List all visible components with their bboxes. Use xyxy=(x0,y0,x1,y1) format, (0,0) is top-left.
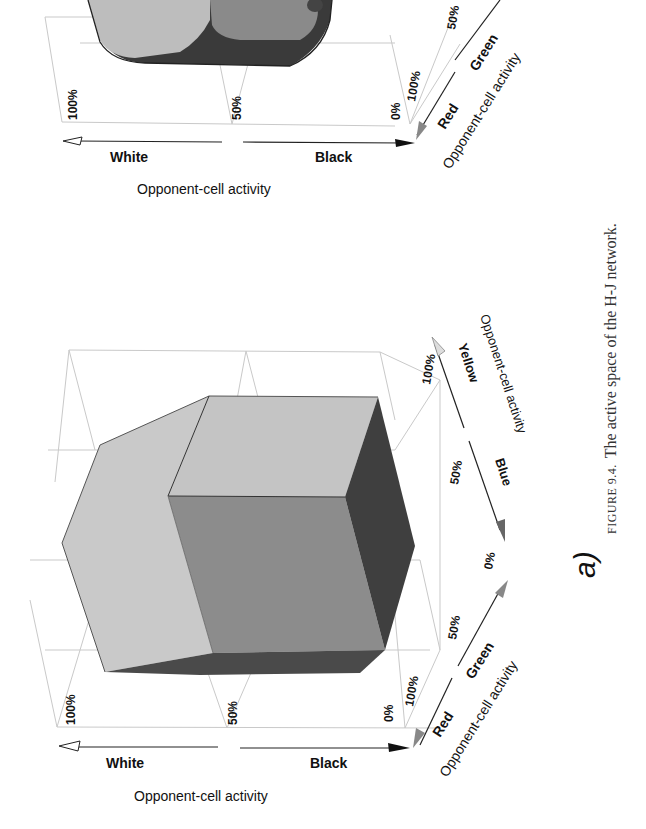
figure-a-tick-100: 100% xyxy=(64,694,78,725)
figure-a: 100% 50% 0% 100% 50% 0% 50% 100% White B… xyxy=(30,312,601,804)
caption-prefix: FIGURE 9.4. xyxy=(605,464,619,534)
figure-b-mid-face xyxy=(210,0,318,40)
figure-b-white-arrow-line xyxy=(75,141,222,142)
figure-b-black-arrow-line xyxy=(243,142,405,143)
figure-page: 100% 50% 0% 100% 50% White Black Opponen… xyxy=(0,0,646,829)
figure-a-blue-label: Blue xyxy=(492,456,515,487)
figure-b-tick-0: 0% xyxy=(389,102,403,120)
figure-a-tick-0: 0% xyxy=(382,704,396,722)
figure-a-white-arrowhead-icon xyxy=(59,741,80,751)
figure-a-by-tick-50: 50% xyxy=(447,459,465,485)
figure-a-rg-tick-0: 0% xyxy=(481,551,498,571)
figure-b-green-label: Green xyxy=(466,31,501,74)
figure-b-white-label: White xyxy=(110,149,148,165)
figure-b-white-arrowhead-icon xyxy=(63,137,82,145)
figure-a-black-arrowhead-icon xyxy=(388,743,410,752)
figure-b-partial: 100% 50% 0% 100% 50% White Black Opponen… xyxy=(45,0,523,197)
figure-a-rg-tick-50: 50% xyxy=(445,614,463,640)
figure-a-yellow-label: Yellow xyxy=(455,341,482,385)
figure-a-by-axis-title: Opponent-cell activity xyxy=(477,312,530,435)
figure-b-black-label: Black xyxy=(315,149,353,165)
figure-a-white-label: White xyxy=(106,755,144,771)
figure-b-black-arrowhead-icon xyxy=(395,139,415,147)
figure-caption-text: FIGURE 9.4.The active space of the H-J n… xyxy=(602,223,620,534)
figure-b-tick-50: 50% xyxy=(230,96,244,120)
figure-caption: FIGURE 9.4.The active space of the H-J n… xyxy=(602,223,620,534)
figure-a-yellow-arrowhead-icon xyxy=(432,337,445,356)
figure-b-red-arrowhead-icon xyxy=(416,121,427,140)
figure-a-panel-label: a) xyxy=(568,551,601,578)
figure-a-by-tick-100: 100% xyxy=(419,353,438,386)
figure-a-green-label: Green xyxy=(462,639,497,682)
figure-b-red-label: Red xyxy=(434,101,462,132)
caption-body: The active space of the H-J network. xyxy=(602,223,620,458)
figure-a-tick-50: 50% xyxy=(226,701,240,725)
figure-a-black-label: Black xyxy=(310,755,348,771)
figure-b-tick-100: 100% xyxy=(66,89,80,120)
figure-a-blue-arrow-line xyxy=(469,441,500,530)
figure-b-rg-tick-50: 50% xyxy=(444,4,462,30)
figure-a-blue-arrowhead-icon xyxy=(496,519,505,542)
figure-a-rg-tick-100: 100% xyxy=(402,675,421,708)
figure-a-red-label: Red xyxy=(429,709,457,740)
figure-a-vertical-axis-title: Opponent-cell activity xyxy=(134,788,268,804)
figure-b-vertical-axis-title: Opponent-cell activity xyxy=(137,181,271,197)
